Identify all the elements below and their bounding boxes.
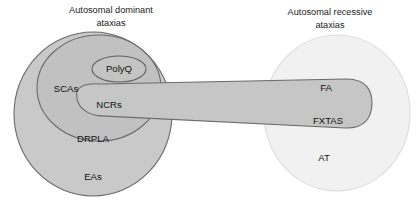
venn-figure: Autosomal dominant ataxias Autosomal rec… [0,0,416,203]
label-ncrs: NCRs [96,99,122,110]
label-scas: SCAs [54,83,79,94]
label-drpla: DRPLA [77,133,110,144]
recessive-title-line1: Autosomal recessive [288,7,373,17]
dominant-title-line2: ataxias [96,18,126,28]
label-fa: FA [320,82,332,93]
recessive-title-line2: ataxias [315,20,345,30]
venn-diagram-canvas: Autosomal dominant ataxias Autosomal rec… [0,0,416,203]
dominant-title-line1: Autosomal dominant [69,5,153,15]
label-polyq: PolyQ [106,63,132,74]
label-at: AT [318,152,330,163]
label-fxtas: FXTAS [313,115,343,126]
label-eas: EAs [84,171,102,182]
